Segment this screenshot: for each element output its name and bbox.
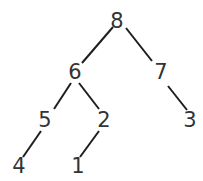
tree-edges — [23, 27, 187, 157]
edge-8-6 — [82, 27, 113, 63]
node-8: 8 — [110, 9, 123, 33]
edge-5-4 — [23, 131, 41, 157]
edge-7-3 — [168, 86, 187, 110]
node-3: 3 — [183, 108, 196, 132]
node-7: 7 — [154, 60, 167, 84]
node-2: 2 — [97, 108, 110, 132]
edge-6-2 — [79, 83, 99, 109]
edge-8-7 — [126, 28, 152, 61]
tree-nodes: 8 6 7 5 2 3 4 1 — [12, 9, 196, 178]
node-1: 1 — [71, 154, 84, 178]
node-4: 4 — [12, 154, 25, 178]
edge-6-5 — [54, 83, 71, 109]
node-6: 6 — [68, 60, 81, 84]
tree-diagram: 8 6 7 5 2 3 4 1 — [0, 0, 203, 181]
node-5: 5 — [38, 108, 51, 132]
